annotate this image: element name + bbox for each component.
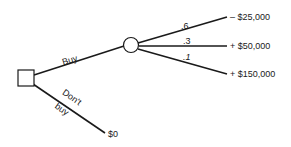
probability-3: .1 (183, 52, 191, 62)
outcome-2: + $50,000 (230, 41, 270, 51)
decision-tree-diagram: Buy Don't buy $0 .6 .3 .1 – $25,000 + $5… (0, 0, 291, 147)
dont-buy-label-2: buy (53, 101, 71, 118)
buy-label: Buy (61, 53, 79, 67)
probability-1: .6 (181, 21, 189, 31)
decision-node (18, 70, 34, 86)
probability-2: .3 (183, 36, 191, 46)
outcome-1: – $25,000 (230, 12, 270, 22)
dont-buy-outcome: $0 (108, 129, 118, 139)
chance-node (124, 38, 139, 53)
outcome-3: + $150,000 (230, 69, 275, 79)
buy-edge (34, 46, 124, 75)
